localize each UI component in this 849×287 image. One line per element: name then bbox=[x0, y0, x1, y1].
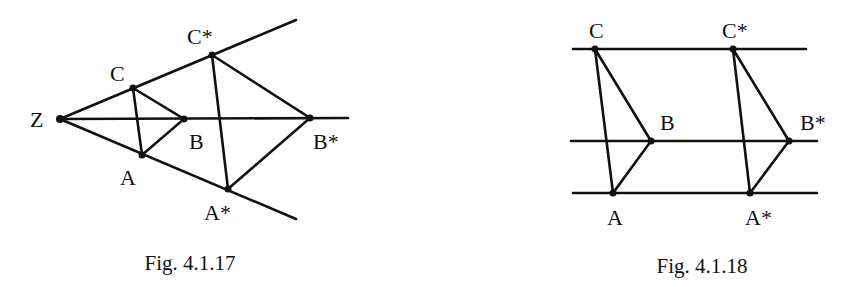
point-z bbox=[56, 115, 64, 123]
ray-lower bbox=[60, 119, 296, 219]
label-c-star: C* bbox=[722, 18, 748, 43]
triangle-abc bbox=[133, 88, 184, 155]
triangle-abc bbox=[595, 49, 651, 193]
label-c: C bbox=[110, 61, 125, 86]
label-z: Z bbox=[30, 107, 43, 132]
triangle-abc-star bbox=[212, 55, 310, 189]
label-c: C bbox=[589, 18, 604, 43]
point-b-star bbox=[307, 115, 314, 122]
label-b: B bbox=[660, 110, 675, 135]
label-b-star: B* bbox=[313, 129, 339, 154]
point-c-star bbox=[209, 52, 216, 59]
ray-upper bbox=[60, 20, 296, 119]
label-b-star: B* bbox=[800, 110, 826, 135]
point-a-star bbox=[225, 186, 232, 193]
triangle-abc-star bbox=[733, 49, 789, 193]
point-b bbox=[648, 138, 655, 145]
diagram-canvas: Z C B A C* B* A* Fig. 4.1.17 C B A C* B*… bbox=[0, 0, 849, 287]
label-a: A bbox=[607, 205, 623, 230]
point-a bbox=[610, 190, 617, 197]
figure-4-1-18: C B A C* B* A* Fig. 4.1.18 bbox=[571, 18, 826, 278]
label-c-star: C* bbox=[187, 24, 213, 49]
point-b bbox=[181, 116, 188, 123]
caption-fig-4-1-18: Fig. 4.1.18 bbox=[656, 254, 747, 278]
caption-fig-4-1-17: Fig. 4.1.17 bbox=[144, 251, 235, 275]
point-b-star bbox=[786, 138, 793, 145]
label-b: B bbox=[189, 129, 204, 154]
point-c bbox=[592, 46, 599, 53]
figure-4-1-17: Z C B A C* B* A* Fig. 4.1.17 bbox=[30, 20, 348, 275]
point-c-star bbox=[730, 46, 737, 53]
label-a: A bbox=[120, 165, 136, 190]
ray-middle bbox=[60, 118, 348, 119]
point-c bbox=[130, 85, 137, 92]
label-a-star: A* bbox=[745, 205, 772, 230]
label-a-star: A* bbox=[204, 200, 231, 225]
point-a bbox=[139, 152, 146, 159]
point-a-star bbox=[747, 190, 754, 197]
